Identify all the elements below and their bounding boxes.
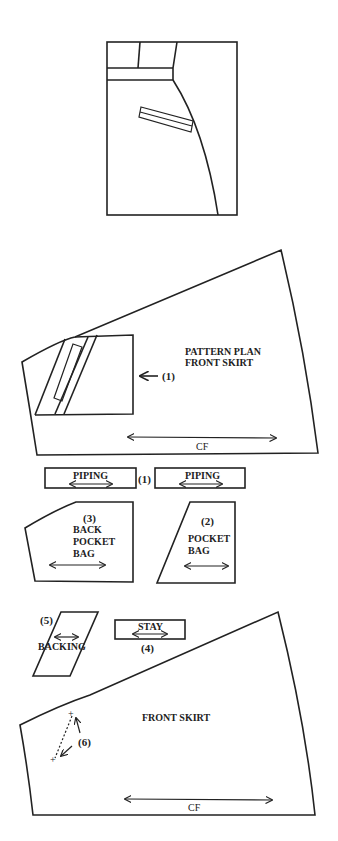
cf-label: CF xyxy=(196,441,209,452)
pattern-diagram: PATTERN PLAN FRONT SKIRT (1) CF PIPING (… xyxy=(0,0,338,841)
cf-label-front: CF xyxy=(188,802,201,813)
welt-pocket-sketch xyxy=(139,107,193,132)
backing-number: (5) xyxy=(40,614,53,627)
pattern-plan-title-2: FRONT SKIRT xyxy=(185,357,253,368)
pocket-placement-marks: + + (6) xyxy=(50,708,91,765)
back-pocket-bag-piece: (3) BACK POCKET BAG xyxy=(25,502,133,582)
piping-label-1: PIPING xyxy=(73,470,108,481)
stay-piece: STAY (4) xyxy=(115,620,185,655)
pocket-bag-number: (2) xyxy=(201,515,214,528)
marker-number: (6) xyxy=(78,736,91,749)
piping-pieces: PIPING (1) PIPING xyxy=(45,468,245,488)
arrow-up-icon xyxy=(76,718,80,733)
pointer-label: (1) xyxy=(162,370,175,383)
back-pocket-bag-line2: POCKET xyxy=(73,536,116,547)
stay-label: STAY xyxy=(138,621,164,632)
backing-piece: (5) BACKING xyxy=(33,612,98,676)
back-pocket-bag-line3: BAG xyxy=(73,548,95,559)
pattern-plan-front-skirt: PATTERN PLAN FRONT SKIRT (1) CF xyxy=(22,250,318,455)
skirt-front-sketch xyxy=(107,42,237,215)
arrow-down-icon xyxy=(61,746,72,756)
cross-mark-icon: + xyxy=(50,754,56,765)
pocket-bag-line1: POCKET xyxy=(188,533,231,544)
grainline-arrow-icon xyxy=(125,799,272,800)
back-pocket-bag-line1: BACK xyxy=(73,524,102,535)
backing-label: BACKING xyxy=(38,641,86,652)
front-skirt-label: FRONT SKIRT xyxy=(142,712,210,723)
pocket-bag-piece: (2) POCKET BAG xyxy=(157,502,235,583)
piping-label-2: PIPING xyxy=(185,470,220,481)
piping-number: (1) xyxy=(138,473,151,486)
stay-number: (4) xyxy=(141,642,154,655)
grainline-arrow-icon xyxy=(128,437,276,438)
pocket-bag-line2: BAG xyxy=(188,545,210,556)
pattern-plan-title-1: PATTERN PLAN xyxy=(185,346,262,357)
